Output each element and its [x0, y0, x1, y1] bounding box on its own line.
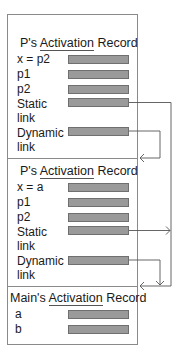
link-arrows: [0, 0, 173, 347]
static-link-arrow-1: [129, 103, 171, 287]
dynamic-link-arrow-1: [129, 131, 160, 158]
dynamic-link-arrow-2: [129, 260, 160, 285]
